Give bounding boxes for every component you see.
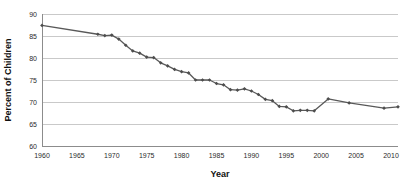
x-tick-label-1965: 1965 xyxy=(69,152,85,159)
x-tick-label-1960: 1960 xyxy=(34,152,50,159)
y-tick-label-80: 80 xyxy=(29,55,37,62)
y-tick-label-70: 70 xyxy=(29,99,37,106)
y-axis-title: Percent of Children xyxy=(3,38,13,121)
line-chart-figure: 60657075808590 1960196519701975198019851… xyxy=(0,0,405,187)
x-tick-label-2000: 2000 xyxy=(313,152,329,159)
x-tick-label-1985: 1985 xyxy=(209,152,225,159)
y-tick-label-65: 65 xyxy=(29,121,37,128)
x-tick-label-1970: 1970 xyxy=(104,152,120,159)
x-tick-label-1980: 1980 xyxy=(174,152,190,159)
chart-canvas: 60657075808590 1960196519701975198019851… xyxy=(0,0,405,187)
x-tick-label-1995: 1995 xyxy=(279,152,295,159)
x-tick-label-1990: 1990 xyxy=(244,152,260,159)
y-tick-label-60: 60 xyxy=(29,143,37,150)
x-tick-label-2005: 2005 xyxy=(348,152,364,159)
x-axis-title: Year xyxy=(210,169,230,179)
y-tick-label-90: 90 xyxy=(29,11,37,18)
y-tick-label-85: 85 xyxy=(29,33,37,40)
x-tick-label-1975: 1975 xyxy=(139,152,155,159)
x-tick-label-2010: 2010 xyxy=(383,152,399,159)
y-tick-label-75: 75 xyxy=(29,77,37,84)
